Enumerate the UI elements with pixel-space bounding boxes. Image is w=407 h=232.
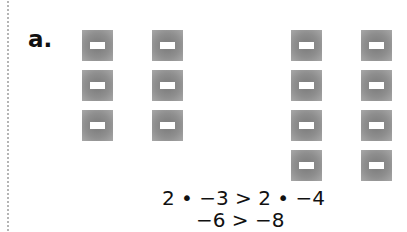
minus-tile-icon [152, 70, 183, 101]
minus-tile-icon [291, 70, 322, 101]
minus-tile-icon [82, 70, 113, 101]
minus-tile-icon [82, 30, 113, 61]
equation-line-2: −6 > −8 [196, 208, 284, 232]
minus-tile-icon [291, 30, 322, 61]
minus-tile-icon [152, 30, 183, 61]
minus-tile-icon [152, 110, 183, 141]
minus-tile-icon [291, 110, 322, 141]
equation-line-1: 2 • −3 > 2 • −4 [162, 186, 325, 210]
minus-tile-icon [361, 150, 392, 181]
minus-tile-icon [291, 150, 322, 181]
part-label: a. [28, 26, 52, 52]
minus-tile-icon [361, 30, 392, 61]
minus-tile-icon [361, 70, 392, 101]
dotted-margin [7, 0, 9, 232]
minus-tile-icon [361, 110, 392, 141]
minus-tile-icon [82, 110, 113, 141]
